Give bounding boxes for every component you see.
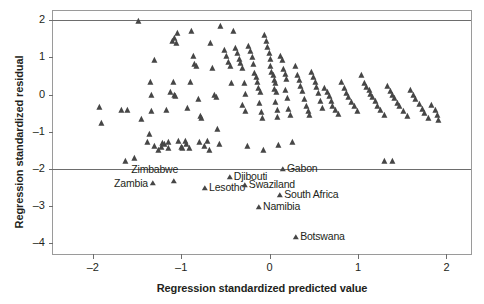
outlier-point-zimbabwe (171, 178, 177, 183)
x-tick-label: –1 (175, 261, 187, 273)
y-tick-label: –1 (33, 125, 45, 137)
outlier-point-swaziland (242, 183, 248, 188)
y-tick-label: –2 (33, 162, 45, 174)
x-tick (446, 254, 447, 259)
outlier-label-zambia: Zambia (114, 178, 148, 189)
outlier-label-zimbabwe: Zimbabwe (131, 164, 178, 175)
outlier-point-gabon (280, 166, 286, 171)
x-tick-label: 1 (355, 261, 361, 273)
outlier-point-south-africa (277, 193, 283, 198)
y-tick-label: 2 (39, 13, 45, 25)
plot-area: 210–1–2–3–4 –2–1012 ZimbabweZambiaDjibou… (52, 10, 472, 255)
outlier-label-gabon: Gabon (287, 163, 318, 174)
x-tick (270, 254, 271, 259)
outlier-point-djibouti (227, 174, 233, 179)
labeled-outliers-layer: ZimbabweZambiaDjiboutiLesothoSwazilandGa… (53, 11, 471, 254)
outlier-point-zambia (150, 180, 156, 185)
x-tick (181, 254, 182, 259)
y-tick-label: 1 (39, 50, 45, 62)
outlier-point-namibia (256, 204, 262, 209)
outlier-label-botswana: Botswana (300, 231, 345, 242)
x-tick-label: –2 (87, 261, 99, 273)
y-tick-label: 0 (39, 88, 45, 100)
y-tick-label: –3 (33, 199, 45, 211)
outlier-label-south-africa: South Africa (284, 189, 338, 200)
x-tick (93, 254, 94, 259)
x-tick (358, 254, 359, 259)
x-tick-label: 0 (267, 261, 273, 273)
outlier-point-lesotho (202, 185, 208, 190)
scatter-plot-figure: Regression standardized residual 210–1–2… (0, 0, 484, 304)
y-axis-title: Regression standardized residual (8, 12, 30, 272)
y-tick-label: –4 (33, 236, 45, 248)
outlier-label-namibia: Namibia (263, 201, 300, 212)
outlier-point-botswana (293, 235, 299, 240)
x-tick-label: 2 (443, 261, 449, 273)
outlier-label-lesotho: Lesotho (209, 182, 245, 193)
x-axis-title: Regression standardized predicted value (52, 282, 472, 294)
